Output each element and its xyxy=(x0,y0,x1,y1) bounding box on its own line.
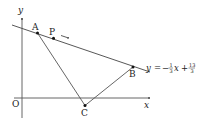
eq-coef-den: 3 xyxy=(170,68,173,74)
eq-plus: + xyxy=(181,63,188,73)
x-axis-arrow xyxy=(148,97,150,99)
segment-ac xyxy=(38,33,86,106)
eq-const-den: 3 xyxy=(191,68,194,74)
y-axis-arrow xyxy=(21,18,23,20)
x-axis-label: x xyxy=(144,100,149,110)
p-direction-arrow xyxy=(61,36,67,38)
y-axis-label: y xyxy=(17,5,24,15)
label-b: B xyxy=(129,69,136,79)
eq-lhs: y xyxy=(145,63,151,73)
line-ab xyxy=(12,25,150,72)
label-c: C xyxy=(81,108,88,118)
eq-const-num: 13 xyxy=(189,62,195,68)
line-equation: y = − 1 3 x + 13 3 xyxy=(145,62,195,75)
segment-bc xyxy=(85,67,133,106)
point-c xyxy=(84,104,87,107)
label-a: A xyxy=(31,22,39,32)
p-direction-arrowhead xyxy=(67,37,69,39)
eq-var: x xyxy=(174,63,179,73)
eq-sign: − xyxy=(162,63,169,73)
point-p xyxy=(52,37,55,40)
eq-equals: = xyxy=(154,63,161,73)
origin-label: O xyxy=(12,99,19,109)
label-p: P xyxy=(49,27,55,37)
eq-coef-num: 1 xyxy=(170,62,173,68)
diagram-canvas: x y O A P B C y = − 1 3 x + 13 3 xyxy=(0,0,218,123)
